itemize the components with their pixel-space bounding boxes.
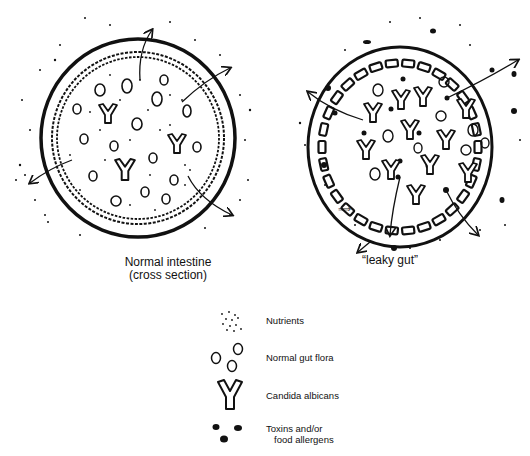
caption-leaky-text: “leaky gut” [320, 254, 460, 267]
gut-flora-icon [212, 344, 243, 372]
svg-text:⟹: ⟹ [338, 204, 351, 214]
legend-symbols [212, 311, 243, 442]
normal-intestine-figure [15, 17, 251, 237]
caption-leaky-gut: “leaky gut” [320, 254, 460, 267]
legend-label-candida: Candida albicans [266, 390, 339, 401]
legend-label-gut-flora: Normal gut flora [266, 352, 334, 363]
nutrients-icon [221, 311, 242, 332]
candida-icon [218, 380, 242, 409]
caption-normal-intestine: Normal intestine (cross section) [88, 256, 248, 282]
leaky-gut-figure: ⟹ [299, 17, 521, 252]
caption-normal-line2: (cross section) [88, 269, 248, 282]
diagram-illustration: ⟹ [0, 0, 530, 456]
gut-diagram: ⟹ Normal intestine (cross [0, 0, 530, 456]
toxins-icon [213, 424, 243, 443]
legend-label-toxins: Toxins and/or food allergens [266, 423, 334, 445]
legend-toxins-line2: food allergens [266, 434, 334, 445]
legend-label-nutrients: Nutrients [266, 315, 304, 326]
legend-toxins-line1: Toxins and/or [266, 423, 334, 434]
